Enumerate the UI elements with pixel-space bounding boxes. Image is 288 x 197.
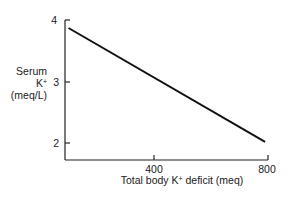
y-tick-label-3: 3 <box>53 76 59 88</box>
y-tick-label-2: 2 <box>53 137 59 149</box>
y-tick-label-4: 4 <box>51 14 57 26</box>
x-axis-label: Total body K+ deficit (meq) <box>121 174 244 186</box>
x-tick-label-800: 800 <box>258 163 276 175</box>
data-line <box>69 28 266 142</box>
chart: 4 3 2 400 800 Serum K+ (meq/L) Total bod… <box>0 0 288 197</box>
y-axis-label-line-2: K+ <box>36 77 47 89</box>
y-axis-label-line-1: Serum <box>16 65 47 77</box>
y-axis-label-line-3: (meq/L) <box>11 89 47 101</box>
